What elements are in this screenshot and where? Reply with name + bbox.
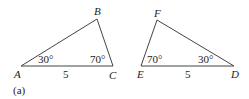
angle-e-label: 70° (147, 53, 162, 65)
congruent-triangles-diagram: A B C 30° 70° 5 F E D 70° 30° 5 (a) (0, 0, 249, 99)
vertex-c-label: C (109, 69, 117, 81)
vertex-e-label: E (136, 68, 144, 80)
vertex-f-label: F (153, 7, 161, 19)
angle-a-label: 30° (38, 53, 53, 65)
side-ed-label: 5 (185, 68, 191, 80)
vertex-d-label: D (230, 68, 239, 80)
angle-d-label: 30° (198, 53, 213, 65)
angle-c-label: 70° (90, 53, 105, 65)
figure-label: (a) (13, 84, 26, 97)
vertex-a-label: A (13, 68, 21, 80)
vertex-b-label: B (94, 5, 101, 17)
side-ac-label: 5 (63, 68, 69, 80)
